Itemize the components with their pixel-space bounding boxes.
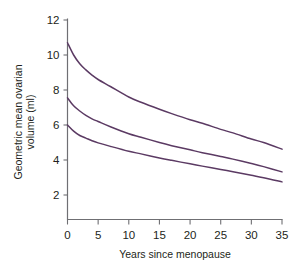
data-curve-lower-curve [68, 125, 283, 182]
x-tick-labels: 05101520253035 [64, 229, 288, 241]
x-axis-title: Years since menopause [119, 248, 231, 260]
x-tick-label: 30 [245, 229, 258, 241]
y-tick-label: 10 [47, 49, 60, 61]
x-tick-label: 10 [122, 229, 135, 241]
x-tick-label: 15 [153, 229, 166, 241]
axis-frame [68, 19, 283, 220]
data-curve-upper-curve [68, 43, 283, 149]
chart-figure: 24681012 05101520253035 Years since meno… [0, 0, 304, 280]
x-tick-label: 25 [214, 229, 227, 241]
y-tick-label: 8 [53, 84, 59, 96]
y-tick-label: 2 [53, 189, 59, 201]
y-axis-title-line1: Geometric mean ovarian [12, 64, 24, 179]
y-tick-labels: 24681012 [47, 14, 60, 201]
y-tick-label: 12 [47, 14, 60, 26]
axis-lines [68, 19, 283, 220]
y-tick-label: 6 [53, 119, 59, 131]
x-tick-label: 0 [64, 229, 70, 241]
y-tick-label: 4 [53, 154, 60, 166]
x-tick-label: 20 [184, 229, 197, 241]
x-tick-label: 35 [276, 229, 289, 241]
data-curves [68, 43, 283, 182]
y-axis-title-line2: volume (ml) [24, 95, 36, 150]
x-tick-marks [68, 220, 283, 225]
x-tick-label: 5 [95, 229, 101, 241]
chart-canvas: 24681012 05101520253035 Years since meno… [0, 0, 304, 280]
